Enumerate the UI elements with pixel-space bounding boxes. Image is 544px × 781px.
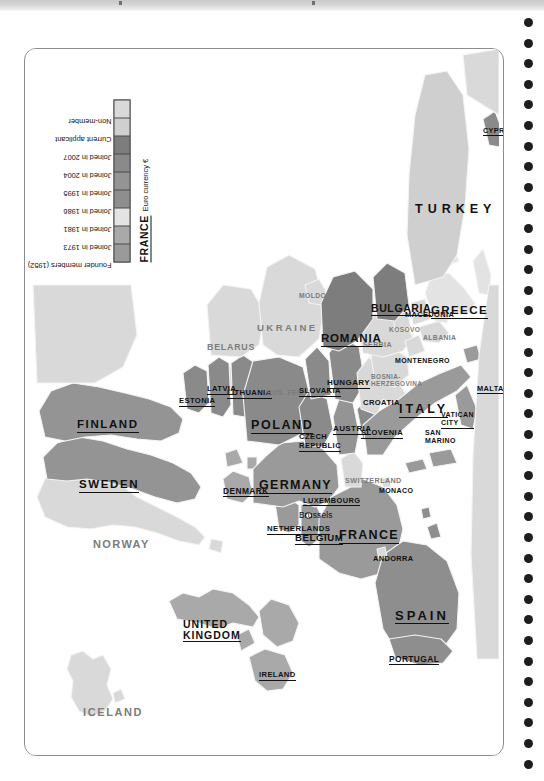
map-label-vatican-city: VATICAN CITY: [441, 411, 474, 429]
binding-hole: [524, 492, 533, 501]
map-label-bulgaria: BULGARIA: [371, 303, 431, 316]
legend-label-founder: Founder members (1952): [28, 261, 112, 270]
map-label-iceland: ICELAND: [83, 707, 143, 718]
binding-hole: [524, 327, 533, 336]
map-label-moldova: MOLDOVA: [299, 293, 336, 300]
binding-hole: [524, 348, 533, 357]
map-label-ireland: IRELAND: [259, 671, 296, 681]
binding-hole: [524, 39, 533, 48]
binding-hole: [524, 306, 533, 315]
binding-hole: [524, 59, 533, 68]
legend-swatch-row: [114, 100, 131, 263]
binding-hole: [524, 615, 533, 624]
map-label-greece: GREECE: [431, 305, 488, 319]
map-label-switzerland: SWITZERLAND: [345, 477, 402, 484]
legend-label-2007: Joined in 2007: [63, 153, 111, 162]
map-label-spain: SPAIN: [395, 609, 449, 624]
map-label-ukraine: UKRAINE: [257, 323, 318, 333]
map-label-malta: MALTA: [477, 385, 504, 394]
binding-hole: [524, 471, 533, 480]
header-mark: [119, 1, 122, 5]
map-label-united-kingdom: UNITED KINGDOM: [183, 619, 241, 642]
binding-hole: [524, 409, 533, 418]
map-label-kosovo: KOSOVO: [389, 327, 420, 334]
binding-hole: [524, 183, 533, 192]
map-label-belgium: BELGIUM: [295, 533, 343, 545]
binding-hole: [524, 368, 533, 377]
binding-hole: [524, 760, 533, 769]
binding-hole: [524, 657, 533, 666]
binding-hole: [524, 698, 533, 707]
binding-hole: [524, 265, 533, 274]
map-label-cyprus: CYPRUS: [483, 127, 504, 136]
legend-swatch-founder: [115, 245, 130, 262]
binding-hole: [524, 739, 533, 748]
map-label-france: FRANCE: [339, 529, 399, 544]
map-label-san-marino: SAN MARINO: [425, 429, 456, 445]
map-label-norway: NORWAY: [93, 539, 150, 550]
legend-swatch-2007: [115, 137, 130, 154]
map-label-portugal: PORTUGAL: [389, 655, 439, 665]
map-label-andorra: ANDORRA: [373, 555, 414, 562]
legend-swatch-1986: [115, 191, 130, 208]
legend-swatch-1973: [115, 227, 130, 244]
binding-hole: [524, 286, 533, 295]
map-label-finland: FINLAND: [77, 419, 139, 433]
binding-hole: [524, 80, 533, 89]
map-label-turkey: TURKEY: [415, 203, 496, 216]
map-label-romania: ROMANIA: [321, 333, 382, 347]
binding-hole: [524, 430, 533, 439]
binding-hole: [524, 512, 533, 521]
legend-euro-country: FRANCE: [138, 215, 152, 262]
legend-euro-note: FRANCEEuro currency €: [138, 159, 150, 263]
map-label-germany: GERMANY: [259, 479, 332, 494]
binding-hole: [524, 245, 533, 254]
legend-swatch-1995: [115, 173, 130, 190]
header-mark: [312, 1, 315, 5]
legend-swatch-1981: [115, 209, 130, 226]
legend-label-1973: Joined in 1973: [63, 243, 111, 252]
binding-hole: [524, 451, 533, 460]
map-label-lithuania: LITHUANIA: [227, 389, 272, 399]
binding-hole: [524, 574, 533, 583]
map-label-monaco: MONACO: [379, 487, 413, 494]
map-legend: Founder members (1952) Joined in 1973 Jo…: [24, 97, 163, 267]
legend-swatch-2004: [115, 155, 130, 172]
legend-label-1995: Joined in 1995: [63, 189, 111, 198]
map-label-czech-republic: CZECH REPUBLIC: [299, 433, 341, 452]
legend-label-1986: Joined in 1986: [63, 207, 111, 216]
binding-hole: [524, 121, 533, 130]
binding-hole: [524, 162, 533, 171]
map-label-sweden: SWEDEN: [79, 479, 139, 493]
legend-swatch-non-member: [115, 101, 130, 118]
map-label-luxembourg: LUXEMBOURG: [303, 497, 360, 506]
spiral-binding: [514, 0, 544, 781]
legend-label-1981: Joined in 1981: [63, 225, 111, 234]
map-label-albania: ALBANIA: [423, 335, 456, 342]
binding-hole: [524, 203, 533, 212]
binding-hole: [524, 100, 533, 109]
binding-hole: [524, 554, 533, 563]
binding-hole: [524, 718, 533, 727]
legend-swatch-applicant: [115, 119, 130, 136]
legend-label-applicant: Current applicant: [55, 135, 111, 144]
map-label-belarus: BELARUS: [207, 343, 255, 352]
map-label-slovenia: SLOVENIA: [361, 429, 403, 439]
map-label-brussels: Brussels: [299, 511, 333, 519]
legend-euro-description: Euro currency €: [141, 159, 150, 211]
atlas-page: ICELAND NORWAY SWEDEN FINLAND ESTONIA LA…: [24, 48, 504, 756]
binding-hole: [524, 677, 533, 686]
binding-hole: [524, 636, 533, 645]
map-label-croatia: CROATIA: [363, 399, 400, 407]
binding-hole: [524, 389, 533, 398]
scanned-header-strip: [0, 0, 544, 11]
legend-label-2004: Joined in 2004: [63, 171, 111, 180]
binding-hole: [524, 18, 533, 27]
legend-label-non-member: Non-member: [68, 117, 111, 126]
binding-hole: [524, 224, 533, 233]
binding-hole: [524, 533, 533, 542]
map-label-estonia: ESTONIA: [179, 397, 215, 407]
map-label-bosnia-herzegovina: BOSNIA- HERZEGOVINA: [371, 373, 422, 387]
binding-hole: [524, 142, 533, 151]
map-label-montenegro: MONTENEGRO: [395, 357, 450, 364]
